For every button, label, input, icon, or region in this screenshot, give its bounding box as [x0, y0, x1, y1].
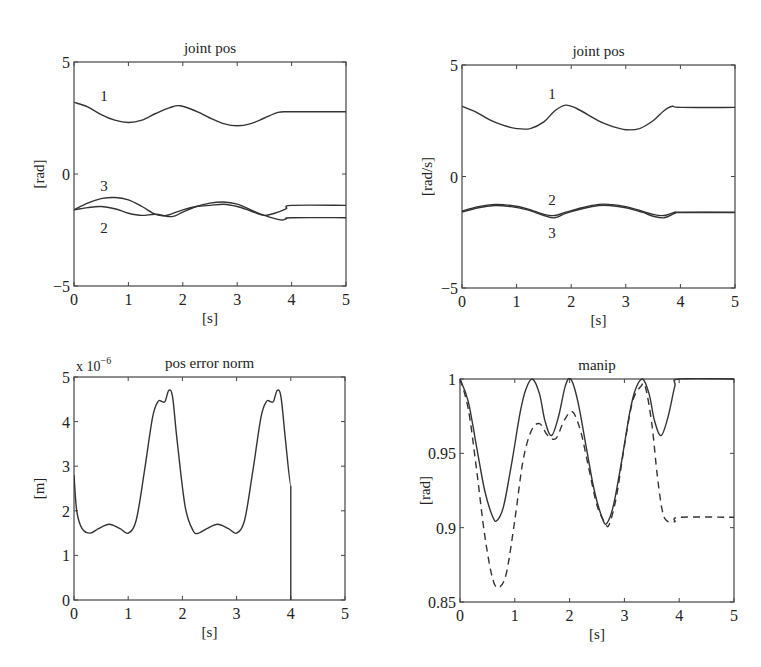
axes-box: [74, 377, 345, 600]
x-tick-label: 0: [456, 607, 464, 624]
y-axis-label: [m]: [31, 478, 47, 500]
figure: joint pos012345−505[s][rad]132joint pos0…: [0, 0, 761, 667]
x-tick-label: 2: [566, 607, 574, 624]
x-axis-ticks: 012345: [70, 377, 349, 622]
subplot-pos-error-norm: pos error norm012345012345[s][m]x 10−6: [31, 355, 349, 640]
y-multiplier-label: x 10−6: [76, 355, 111, 374]
subplot-manip: manip0123450.850.90.951[s][rad]: [417, 357, 738, 642]
x-tick-label: 3: [622, 293, 630, 310]
y-axis-label: [rad]: [417, 476, 433, 505]
series-line-solid: [460, 378, 734, 524]
figure-canvas: joint pos012345−505[s][rad]132joint pos0…: [0, 0, 761, 667]
x-tick-label: 3: [233, 291, 241, 308]
y-tick-label: 3: [62, 458, 70, 475]
x-tick-label: 2: [567, 293, 575, 310]
y-tick-label: −5: [53, 278, 70, 295]
x-tick-label: 1: [513, 293, 521, 310]
y-axis-ticks: −505: [53, 54, 346, 295]
y-tick-label: 0.9: [436, 520, 456, 537]
y-tick-label: 0.95: [428, 445, 456, 462]
x-tick-label: 0: [458, 293, 466, 310]
x-tick-label: 1: [124, 605, 132, 622]
curve-label: 1: [548, 86, 556, 102]
series-line-dashed: [460, 379, 734, 588]
x-axis-label: [s]: [202, 624, 218, 640]
x-tick-label: 5: [341, 605, 349, 622]
y-tick-label: 0: [62, 166, 70, 183]
curve-label: 2: [100, 220, 108, 236]
y-tick-label: 2: [62, 503, 70, 520]
x-tick-label: 4: [288, 291, 296, 308]
x-axis-ticks: 012345: [458, 65, 739, 310]
series-line-3: [74, 197, 346, 215]
x-axis-label: [s]: [589, 626, 605, 642]
y-tick-label: 5: [450, 57, 458, 74]
y-axis-label: [rad/s]: [419, 157, 435, 196]
subplot-joint-pos-right: joint pos012345−505[s][rad/s]123: [419, 43, 739, 328]
x-tick-label: 5: [730, 607, 738, 624]
y-tick-label: 4: [62, 414, 70, 431]
x-tick-label: 2: [178, 605, 186, 622]
x-tick-label: 5: [342, 291, 350, 308]
y-tick-label: 0: [62, 592, 70, 609]
x-axis-ticks: 012345: [70, 62, 350, 308]
x-tick-label: 2: [179, 291, 187, 308]
subplot-title: joint pos: [183, 40, 236, 56]
series-group: [74, 390, 291, 600]
y-tick-label: 1: [62, 547, 70, 564]
curve-label: 2: [548, 192, 556, 208]
subplot-joint-pos-left: joint pos012345−505[s][rad]132: [31, 40, 350, 326]
series-line-error-norm: [74, 390, 291, 600]
curve-label: 3: [548, 225, 556, 241]
series-line-1: [462, 105, 735, 130]
x-tick-label: 0: [70, 605, 78, 622]
axes-box: [74, 62, 346, 286]
x-tick-label: 3: [233, 605, 241, 622]
y-axis-label: [rad]: [31, 159, 47, 188]
series-group: [462, 105, 735, 218]
y-tick-label: 1: [448, 371, 456, 388]
y-tick-label: 0: [450, 169, 458, 186]
x-axis-label: [s]: [591, 312, 607, 328]
y-axis-ticks: −505: [441, 57, 735, 297]
x-tick-label: 0: [70, 291, 78, 308]
axes-box: [460, 379, 734, 602]
y-tick-label: 0.85: [428, 594, 456, 611]
y-tick-label: −5: [441, 280, 458, 297]
series-line-1: [74, 102, 346, 126]
y-tick-label: 5: [62, 369, 70, 386]
x-tick-label: 1: [124, 291, 132, 308]
x-tick-label: 4: [675, 607, 683, 624]
series-group: [460, 378, 734, 588]
x-tick-label: 3: [620, 607, 628, 624]
series-group: [74, 102, 346, 220]
x-tick-label: 5: [731, 293, 739, 310]
subplot-title: joint pos: [571, 43, 624, 59]
x-tick-label: 4: [287, 605, 295, 622]
y-axis-ticks: 012345: [62, 369, 345, 609]
y-axis-ticks: 0.850.90.951: [428, 371, 734, 611]
axes-box: [462, 65, 735, 288]
x-tick-label: 1: [511, 607, 519, 624]
curve-label: 3: [100, 178, 108, 194]
subplot-title: manip: [578, 357, 616, 373]
y-tick-label: 5: [62, 54, 70, 71]
x-axis-label: [s]: [202, 310, 218, 326]
curve-label: 1: [100, 88, 108, 104]
subplot-title: pos error norm: [165, 355, 254, 371]
x-tick-label: 4: [676, 293, 684, 310]
